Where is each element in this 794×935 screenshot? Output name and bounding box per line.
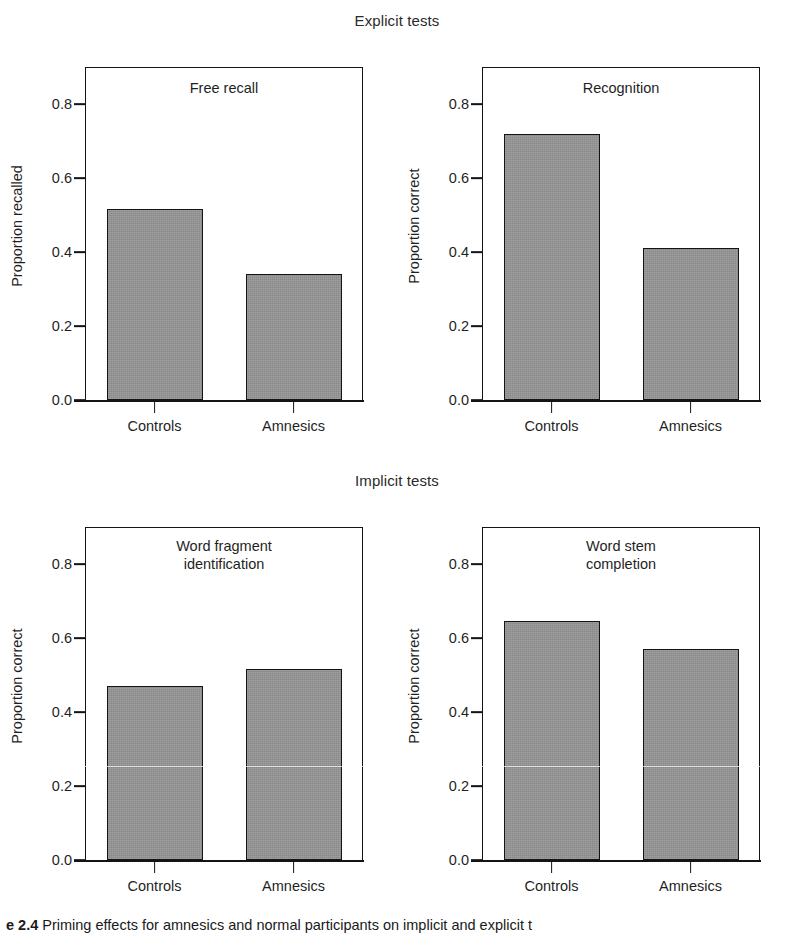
y-tick-mark [471, 177, 482, 179]
y-tick-mark [471, 399, 482, 401]
x-axis-line [74, 860, 364, 862]
panel-title: Word fragment identification [85, 538, 363, 573]
y-tick-labels: 0.00.20.40.60.8 [425, 52, 469, 400]
x-tick-mark [154, 862, 156, 873]
bar [504, 621, 600, 860]
bar-layer [85, 527, 363, 860]
figure-caption-text: Priming effects for amnesics and normal … [42, 917, 532, 933]
y-tick-mark [74, 325, 85, 327]
x-tick-labels: ControlsAmnesics [85, 418, 363, 442]
y-tick-label: 0.6 [449, 630, 469, 646]
chart-panel-word-stem-completion: Proportion correct 0.00.20.40.60.8 Contr… [397, 512, 794, 912]
bar [504, 134, 600, 400]
x-tick-label: Amnesics [262, 878, 325, 894]
x-tick-mark [690, 862, 692, 873]
x-axis-line [471, 860, 761, 862]
x-tick-label: Amnesics [262, 418, 325, 434]
x-tick-label: Amnesics [659, 878, 722, 894]
y-tick-label: 0.8 [52, 556, 72, 572]
y-tick-label: 0.0 [449, 852, 469, 868]
y-tick-mark [74, 711, 85, 713]
y-tick-label: 0.2 [52, 318, 72, 334]
y-axis-label: Proportion correct [403, 52, 425, 400]
y-tick-mark [74, 563, 85, 565]
y-tick-mark [74, 399, 85, 401]
y-tick-labels: 0.00.20.40.60.8 [425, 512, 469, 860]
panel-title: Word stem completion [482, 538, 760, 573]
bar [107, 209, 203, 400]
y-tick-label: 0.2 [449, 778, 469, 794]
y-tick-labels: 0.00.20.40.60.8 [28, 512, 72, 860]
y-tick-label: 0.8 [52, 96, 72, 112]
x-tick-label: Controls [128, 878, 182, 894]
figure-caption-line: e 2.4 Priming effects for amnesics and n… [0, 915, 794, 935]
y-tick-mark [471, 325, 482, 327]
bar-layer [482, 67, 760, 400]
x-axis-line [471, 400, 761, 402]
bar-layer [85, 67, 363, 400]
y-tick-mark [471, 859, 482, 861]
y-axis-label: Proportion correct [6, 512, 28, 860]
y-tick-label: 0.4 [52, 704, 72, 720]
x-tick-labels: ControlsAmnesics [85, 878, 363, 902]
chart-panel-recognition: Proportion correct 0.00.20.40.60.8 Contr… [397, 52, 794, 452]
x-axis-line [74, 400, 364, 402]
y-tick-label: 0.4 [449, 704, 469, 720]
bar [643, 248, 739, 400]
y-tick-label: 0.6 [52, 170, 72, 186]
bar [246, 274, 342, 400]
chart-panel-word-fragment-identification: Proportion correct 0.00.20.40.60.8 Contr… [0, 512, 397, 912]
x-tick-label: Controls [128, 418, 182, 434]
y-axis-label: Proportion recalled [6, 52, 28, 400]
section-header-explicit: Explicit tests [0, 12, 794, 29]
y-tick-label: 0.0 [449, 392, 469, 408]
y-tick-label: 0.4 [449, 244, 469, 260]
y-tick-labels: 0.00.20.40.60.8 [28, 52, 72, 400]
y-tick-label: 0.0 [52, 852, 72, 868]
figure-page: Explicit tests Implicit tests Proportion… [0, 0, 794, 935]
x-tick-mark [293, 862, 295, 873]
y-tick-mark [471, 103, 482, 105]
figure-number: e 2.4 [6, 917, 38, 933]
x-tick-label: Controls [525, 418, 579, 434]
y-tick-label: 0.8 [449, 96, 469, 112]
x-tick-mark [154, 402, 156, 413]
bar [643, 649, 739, 860]
x-tick-label: Amnesics [659, 418, 722, 434]
y-tick-mark [471, 563, 482, 565]
x-tick-mark [293, 402, 295, 413]
y-tick-label: 0.4 [52, 244, 72, 260]
x-tick-label: Controls [525, 878, 579, 894]
y-tick-mark [74, 251, 85, 253]
x-tick-labels: ControlsAmnesics [482, 418, 760, 442]
bar-layer [482, 527, 760, 860]
panel-title: Free recall [85, 80, 363, 98]
y-tick-mark [471, 637, 482, 639]
y-tick-mark [74, 637, 85, 639]
y-tick-label: 0.6 [449, 170, 469, 186]
bar [246, 669, 342, 860]
y-tick-label: 0.2 [52, 778, 72, 794]
y-tick-mark [74, 177, 85, 179]
y-tick-mark [74, 785, 85, 787]
y-tick-mark [471, 711, 482, 713]
x-tick-mark [551, 862, 553, 873]
y-tick-mark [471, 251, 482, 253]
x-tick-mark [690, 402, 692, 413]
y-tick-label: 0.8 [449, 556, 469, 572]
y-tick-label: 0.2 [449, 318, 469, 334]
figure-caption: e 2.4 Priming effects for amnesics and n… [0, 915, 794, 935]
y-tick-label: 0.6 [52, 630, 72, 646]
y-axis-label: Proportion correct [403, 512, 425, 860]
section-header-implicit: Implicit tests [0, 472, 794, 489]
y-tick-mark [74, 859, 85, 861]
bar [107, 686, 203, 860]
y-tick-mark [471, 785, 482, 787]
x-tick-mark [551, 402, 553, 413]
x-tick-labels: ControlsAmnesics [482, 878, 760, 902]
y-tick-label: 0.0 [52, 392, 72, 408]
panel-title: Recognition [482, 80, 760, 98]
chart-panel-free-recall: Proportion recalled 0.00.20.40.60.8 Cont… [0, 52, 397, 452]
y-tick-mark [74, 103, 85, 105]
